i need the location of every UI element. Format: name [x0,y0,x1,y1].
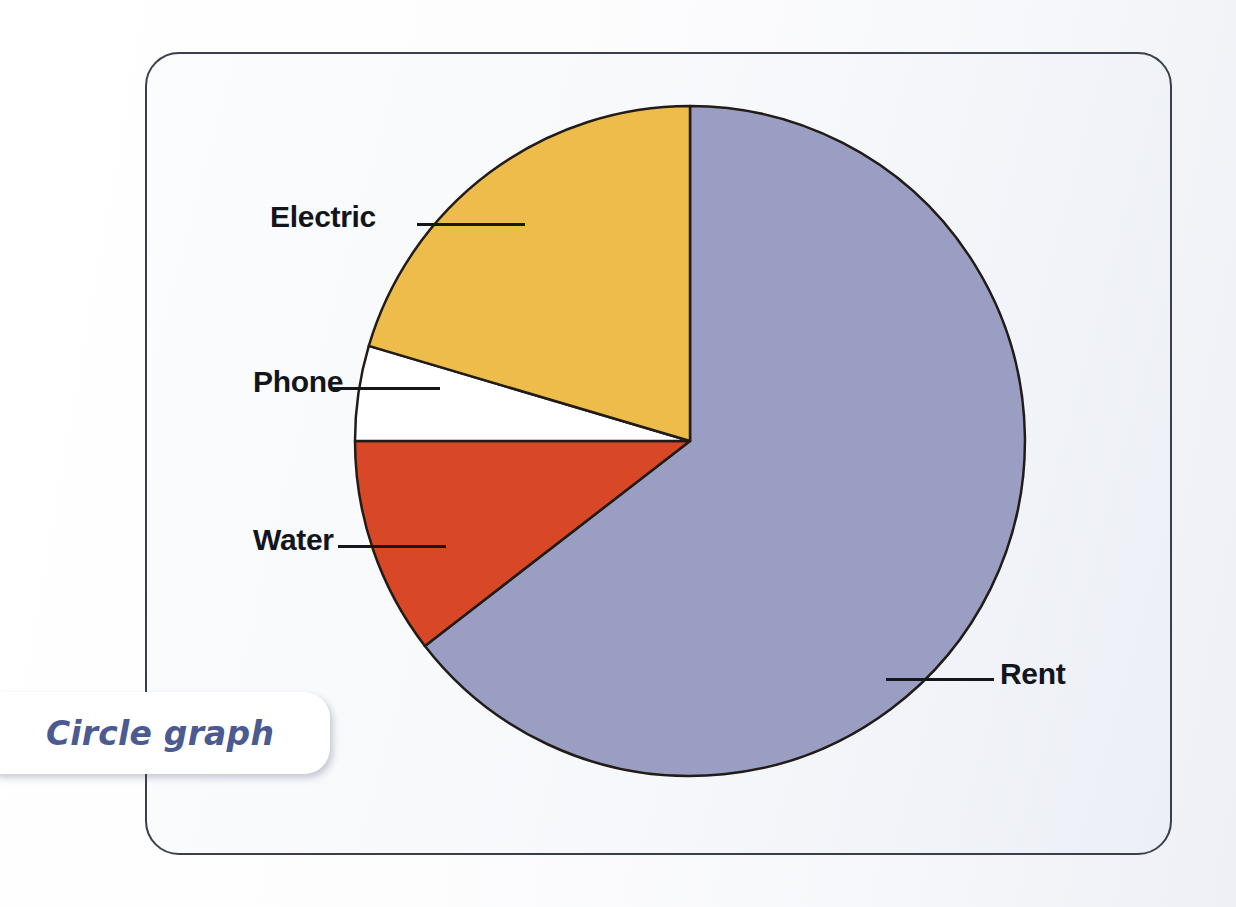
slice-label-phone: Phone [253,365,343,399]
circle-graph-badge-label: Circle graph [46,714,274,753]
circle-graph-badge: Circle graph [0,692,330,774]
leader-line-rent [886,678,994,681]
slice-label-rent: Rent [1000,657,1065,691]
leader-line-electric [417,223,525,226]
leader-line-phone [332,387,440,390]
slice-label-water: Water [253,523,334,557]
leader-line-water [338,545,446,548]
slice-label-electric: Electric [270,200,376,234]
